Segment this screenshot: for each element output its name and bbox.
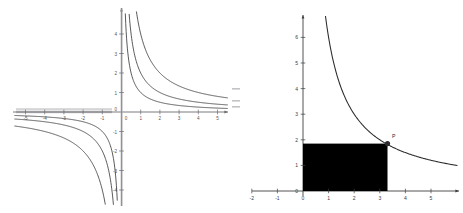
- left-ytick-label: 4: [114, 32, 117, 37]
- right-ytick-label: 2: [295, 137, 298, 143]
- right-y-tick-labels: 0 1 2 3 4 5 6: [295, 34, 298, 194]
- right-ytick-label: 5: [295, 60, 298, 66]
- scan-artifact-smear-5: [232, 106, 240, 108]
- right-xtick-label: 5: [430, 195, 433, 201]
- left-curve-q3-k4: [14, 126, 105, 205]
- left-chart-panel: -5 -4 -3 -2 -1 0 1 2 3 4 5: [0, 0, 232, 213]
- left-curve-q1-k4: [136, 11, 227, 97]
- right-xtick-label: 3: [378, 195, 381, 201]
- left-curve-q1-k1: [125, 13, 227, 108]
- right-chart-panel: -2 -1 0 1 2 3 4 5 0 1 2: [232, 0, 463, 213]
- right-ytick-label: 1: [295, 162, 298, 168]
- left-ytick-label: 2: [114, 71, 117, 76]
- point-p-label: P: [392, 133, 396, 139]
- right-ytick-label: 4: [295, 86, 298, 92]
- left-xtick-label: 0: [125, 116, 128, 121]
- left-curve-q3-k2: [14, 119, 113, 205]
- left-xtick-label: 5: [216, 116, 219, 121]
- right-xtick-label: 2: [353, 195, 356, 201]
- right-xtick-label: 0: [302, 195, 305, 201]
- left-xtick-label: 1: [139, 116, 142, 121]
- right-xtick-label: 1: [327, 195, 330, 201]
- left-y-axis-smear: [120, 8, 123, 206]
- left-xtick-label: -2: [81, 116, 86, 121]
- left-hyperbola-plot: -5 -4 -3 -2 -1 0 1 2 3 4 5: [0, 0, 232, 213]
- left-ytick-label: 3: [114, 52, 117, 57]
- right-x-axis-arrow: [455, 190, 459, 193]
- shaded-rectangle: [303, 144, 388, 191]
- point-p-marker: [385, 141, 390, 146]
- left-x-axis-arrow: [224, 111, 228, 114]
- right-ytick-label: 3: [295, 111, 298, 117]
- right-xtick-label: -1: [275, 195, 280, 201]
- right-x-tick-labels: -2 -1 0 1 2 3 4 5: [250, 195, 433, 201]
- left-xtick-label: 3: [178, 116, 181, 121]
- scan-artifact-smear-2: [16, 108, 112, 109]
- left-ytick-label: 1: [114, 91, 117, 96]
- right-curve-group: [325, 16, 457, 166]
- scan-artifact-smear-3: [232, 88, 240, 90]
- left-xtick-label: 4: [197, 116, 200, 121]
- left-xtick-label: -1: [100, 116, 105, 121]
- left-ytick-label: -1: [113, 130, 118, 135]
- left-ytick-label: -2: [113, 149, 118, 154]
- right-xtick-label: 4: [404, 195, 407, 201]
- left-xtick-label: 2: [159, 116, 162, 121]
- two-panel-hyperbola-figure: -5 -4 -3 -2 -1 0 1 2 3 4 5: [0, 0, 463, 213]
- left-curve-q1-k2: [129, 14, 228, 105]
- right-ytick-label: 6: [295, 34, 298, 40]
- right-origin-label: 0: [295, 188, 298, 194]
- right-y-axis-arrow: [302, 15, 305, 19]
- right-curve-k6: [325, 16, 457, 166]
- scan-artifact-smear-4: [232, 100, 240, 102]
- right-hyperbola-plot: -2 -1 0 1 2 3 4 5 0 1 2: [232, 0, 463, 213]
- right-xtick-label: -2: [250, 195, 255, 201]
- left-origin-label: 0: [114, 107, 117, 112]
